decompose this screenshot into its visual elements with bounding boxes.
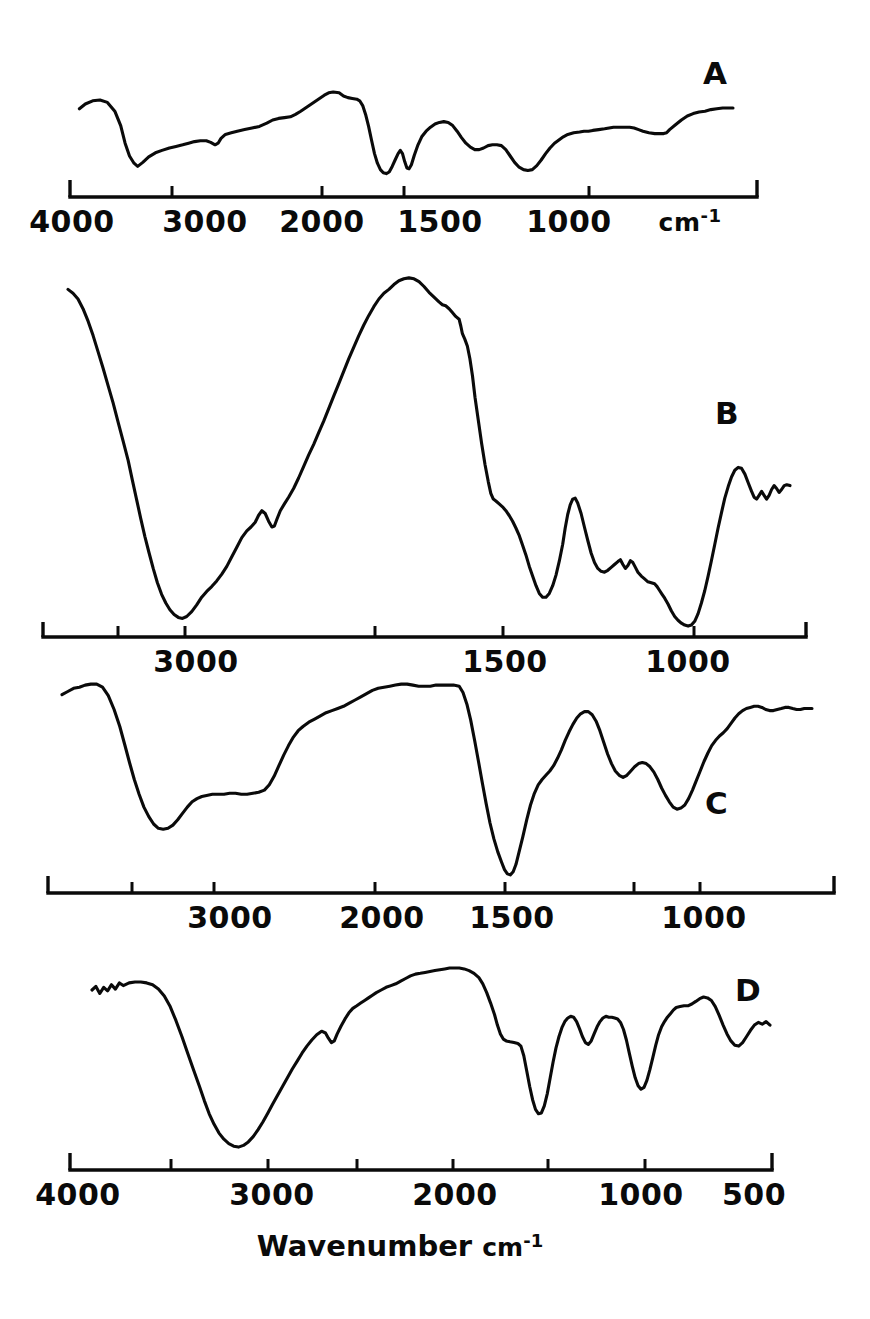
spectrum-trace-a (79, 92, 733, 174)
axis-tick-label: 1000 (526, 207, 612, 237)
axis-tick-label: 3000 (162, 207, 248, 237)
spectrum-trace-d (92, 968, 770, 1147)
spectrum-panel-a: A 40003000200015001000cm-1 (0, 0, 870, 260)
x-axis-caption-unit: cm-1 (482, 1233, 543, 1262)
panel-d-axis (70, 1153, 772, 1170)
axis-tick-label: 3000 (153, 647, 239, 677)
axis-tick-label: 3000 (187, 903, 273, 933)
x-axis-caption: Wavenumber cm-1 (257, 1232, 543, 1261)
panel-letter-c: C (705, 788, 728, 819)
axis-tick-label: 3000 (229, 1180, 315, 1210)
axis-tick-label: 2000 (339, 903, 425, 933)
axis-tick-label: 2000 (279, 207, 365, 237)
spectrum-panel-b: B 300015001000 (0, 260, 870, 680)
spectrum-panel-c: C 3000200015001000 (0, 680, 870, 940)
axis-tick-label: 1500 (462, 647, 548, 677)
axis-tick-label: 1000 (661, 903, 747, 933)
axis-tick-label: 4000 (35, 1180, 121, 1210)
axis-unit-label: cm-1 (659, 210, 722, 235)
axis-tick-label: 1000 (598, 1180, 684, 1210)
panel-letter-d: D (735, 975, 761, 1006)
axis-tick-label: 1500 (469, 903, 555, 933)
panel-letter-b: B (715, 398, 739, 429)
panel-a-axis (70, 180, 757, 197)
axis-tick-label: 2000 (412, 1180, 498, 1210)
axis-tick-label: 1000 (645, 647, 731, 677)
spectrum-trace-c (62, 684, 812, 875)
x-axis-caption-text: Wavenumber (257, 1229, 472, 1263)
panel-letter-a: A (703, 58, 727, 89)
axis-tick-label: 4000 (29, 207, 115, 237)
ir-spectra-figure: A 40003000200015001000cm-1 B 30001500100… (0, 0, 870, 1319)
axis-tick-label: 1500 (397, 207, 483, 237)
panel-c-axis (48, 876, 834, 893)
panel-b-plot (0, 260, 870, 680)
axis-tick-label: 500 (722, 1180, 786, 1210)
spectrum-trace-b (68, 278, 790, 626)
